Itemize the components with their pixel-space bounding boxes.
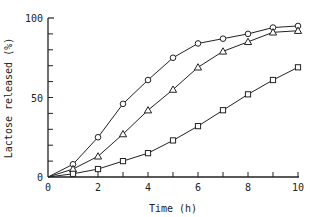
circle-marker [170,55,176,61]
circle-marker [120,101,126,107]
series-line [48,26,298,177]
y-tick-label: 0 [37,172,43,183]
lactose-release-chart: 0501000246810 Time (h) Lactose released … [0,0,319,217]
y-axis-label: Lactose released (%) [3,38,14,158]
square-marker [270,77,275,82]
series-line [48,67,298,177]
circle-marker [95,134,101,140]
series-square [48,65,301,177]
triangle-marker [194,64,201,70]
x-tick-label: 2 [95,182,101,193]
series-triangle [48,27,302,177]
square-marker [170,138,175,143]
x-tick-label: 10 [292,182,304,193]
x-axis-label: Time (h) [149,203,197,214]
circle-marker [145,77,151,83]
circle-marker [245,31,251,37]
square-marker [245,92,250,97]
square-marker [295,65,300,70]
square-marker [120,159,125,164]
x-tick-label: 6 [195,182,201,193]
circle-marker [220,36,226,42]
data-series [48,23,302,177]
square-marker [70,171,75,176]
y-tick-label: 100 [25,13,43,24]
square-marker [195,124,200,129]
axes: 0501000246810 [25,13,304,193]
circle-marker [195,41,201,47]
x-tick-label: 4 [145,182,151,193]
x-tick-label: 8 [245,182,251,193]
series-line [48,31,298,177]
square-marker [95,166,100,171]
square-marker [145,151,150,156]
square-marker [220,108,225,113]
series-circle [48,23,301,177]
x-tick-label: 0 [45,182,51,193]
y-tick-label: 50 [31,93,43,104]
